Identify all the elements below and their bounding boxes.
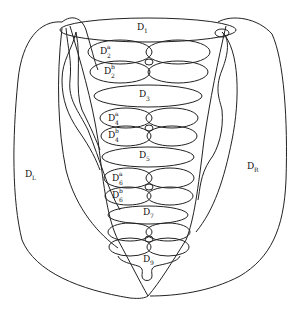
label-d6b: D b 6 — [112, 187, 123, 203]
ellipse-d2a-right — [146, 40, 210, 64]
label-d9: D 9 — [143, 254, 154, 266]
label-d4b: D b 4 — [108, 127, 119, 143]
label-d5: D 5 — [139, 150, 150, 162]
disk-decomposition-diagram: D 1 D a 2 D b 2 D 3 D a 4 D b 4 D 5 D a … — [0, 0, 298, 313]
svg-text:R: R — [254, 166, 259, 173]
svg-text:4: 4 — [115, 136, 119, 143]
left-ribbon-3 — [62, 32, 100, 170]
ellipse-d2a-left — [88, 40, 152, 64]
ellipse-d4a-right — [146, 108, 198, 128]
crossing-6 — [145, 184, 153, 190]
right-ribbon-2 — [198, 32, 227, 200]
label-d2b: D b 2 — [104, 63, 115, 79]
right-ribbon-1 — [196, 32, 237, 232]
label-dl: D L — [25, 169, 36, 181]
label-d3: D 3 — [139, 89, 150, 102]
svg-text:4: 4 — [115, 119, 119, 126]
svg-text:6: 6 — [119, 179, 123, 186]
svg-text:9: 9 — [150, 259, 154, 266]
svg-text:2: 2 — [107, 52, 111, 59]
ellipse-d4b-right — [147, 126, 197, 146]
ellipse-d6a-right — [146, 168, 194, 188]
ellipse-d6b-right — [147, 187, 193, 205]
svg-text:3: 3 — [146, 95, 150, 102]
svg-text:L: L — [32, 174, 36, 181]
svg-text:a: a — [107, 43, 111, 50]
crossing-2 — [145, 59, 153, 65]
svg-text:6: 6 — [119, 196, 123, 203]
svg-text:a: a — [115, 110, 119, 117]
crossing-4 — [145, 125, 153, 131]
svg-text:b: b — [111, 63, 115, 70]
svg-text:2: 2 — [111, 72, 115, 79]
label-d2a: D a 2 — [100, 43, 111, 59]
svg-text:7: 7 — [150, 212, 154, 219]
label-d4a: D a 4 — [108, 110, 119, 126]
svg-text:1: 1 — [144, 27, 148, 34]
svg-text:b: b — [119, 187, 123, 194]
svg-text:a: a — [119, 170, 123, 177]
label-d7: D 7 — [143, 207, 154, 219]
label-d6a: D a 6 — [112, 170, 123, 186]
label-d1: D 1 — [137, 22, 148, 34]
svg-text:b: b — [115, 127, 119, 134]
svg-text:5: 5 — [146, 155, 150, 162]
label-dr: D R — [247, 161, 259, 173]
